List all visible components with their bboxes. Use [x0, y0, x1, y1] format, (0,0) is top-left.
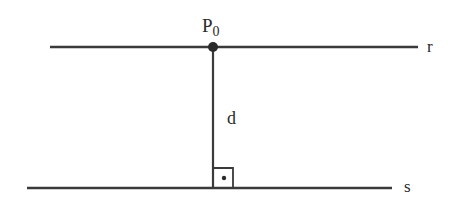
segment-label-d: d	[227, 108, 236, 128]
right-angle-dot	[222, 176, 226, 180]
line-label-s: s	[404, 177, 411, 196]
point-label-p0: P0	[202, 15, 220, 39]
point-p0	[208, 42, 218, 52]
line-label-r: r	[427, 37, 433, 56]
parallel-lines-distance-diagram: P0 r s d	[0, 0, 460, 200]
